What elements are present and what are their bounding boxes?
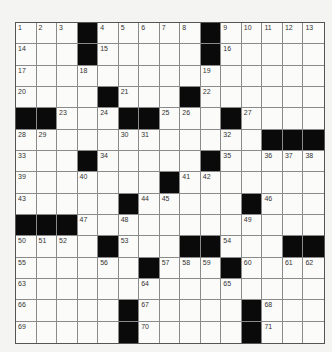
answer-cell[interactable] [139, 87, 160, 108]
answer-cell[interactable] [57, 322, 78, 343]
answer-cell[interactable] [303, 87, 324, 108]
answer-cell[interactable]: 71 [262, 322, 283, 343]
answer-cell[interactable] [98, 130, 119, 151]
answer-cell[interactable]: 20 [16, 87, 37, 108]
answer-cell[interactable] [78, 130, 99, 151]
answer-cell[interactable]: 39 [16, 172, 37, 193]
answer-cell[interactable]: 42 [201, 172, 222, 193]
answer-cell[interactable] [180, 322, 201, 343]
answer-cell[interactable]: 50 [16, 236, 37, 257]
answer-cell[interactable] [303, 44, 324, 65]
answer-cell[interactable]: 37 [283, 151, 304, 172]
answer-cell[interactable]: 2 [37, 23, 58, 44]
answer-cell[interactable] [242, 172, 263, 193]
answer-cell[interactable] [119, 151, 140, 172]
answer-cell[interactable]: 70 [139, 322, 160, 343]
answer-cell[interactable] [242, 279, 263, 300]
answer-cell[interactable] [180, 44, 201, 65]
answer-cell[interactable] [262, 258, 283, 279]
answer-cell[interactable] [283, 87, 304, 108]
answer-cell[interactable] [98, 66, 119, 87]
answer-cell[interactable] [160, 322, 181, 343]
answer-cell[interactable] [303, 215, 324, 236]
answer-cell[interactable] [119, 44, 140, 65]
answer-cell[interactable] [37, 66, 58, 87]
answer-cell[interactable] [37, 300, 58, 321]
answer-cell[interactable] [180, 300, 201, 321]
answer-cell[interactable]: 24 [98, 108, 119, 129]
answer-cell[interactable] [37, 44, 58, 65]
answer-cell[interactable]: 5 [119, 23, 140, 44]
answer-cell[interactable] [160, 300, 181, 321]
answer-cell[interactable] [78, 194, 99, 215]
answer-cell[interactable] [37, 258, 58, 279]
answer-cell[interactable] [201, 279, 222, 300]
answer-cell[interactable] [303, 66, 324, 87]
answer-cell[interactable]: 66 [16, 300, 37, 321]
answer-cell[interactable]: 60 [242, 258, 263, 279]
answer-cell[interactable]: 55 [16, 258, 37, 279]
answer-cell[interactable] [139, 66, 160, 87]
answer-cell[interactable] [78, 87, 99, 108]
answer-cell[interactable] [160, 130, 181, 151]
answer-cell[interactable]: 64 [139, 279, 160, 300]
answer-cell[interactable] [242, 44, 263, 65]
answer-cell[interactable]: 57 [160, 258, 181, 279]
answer-cell[interactable]: 19 [201, 66, 222, 87]
answer-cell[interactable]: 34 [98, 151, 119, 172]
answer-cell[interactable]: 38 [303, 151, 324, 172]
answer-cell[interactable] [283, 108, 304, 129]
answer-cell[interactable] [303, 172, 324, 193]
answer-cell[interactable]: 43 [16, 194, 37, 215]
answer-cell[interactable] [139, 236, 160, 257]
answer-cell[interactable] [201, 300, 222, 321]
answer-cell[interactable]: 23 [57, 108, 78, 129]
answer-cell[interactable] [160, 215, 181, 236]
answer-cell[interactable] [242, 130, 263, 151]
answer-cell[interactable]: 56 [98, 258, 119, 279]
answer-cell[interactable] [78, 258, 99, 279]
answer-cell[interactable]: 8 [180, 23, 201, 44]
answer-cell[interactable] [283, 279, 304, 300]
answer-cell[interactable]: 27 [242, 108, 263, 129]
answer-cell[interactable]: 61 [283, 258, 304, 279]
answer-cell[interactable]: 11 [262, 23, 283, 44]
answer-cell[interactable] [221, 87, 242, 108]
answer-cell[interactable] [119, 279, 140, 300]
answer-cell[interactable]: 30 [119, 130, 140, 151]
answer-cell[interactable] [160, 151, 181, 172]
answer-cell[interactable] [180, 279, 201, 300]
answer-cell[interactable] [221, 172, 242, 193]
answer-cell[interactable] [37, 172, 58, 193]
answer-cell[interactable] [57, 44, 78, 65]
answer-cell[interactable]: 25 [160, 108, 181, 129]
answer-cell[interactable] [57, 130, 78, 151]
answer-cell[interactable] [221, 215, 242, 236]
answer-cell[interactable]: 36 [262, 151, 283, 172]
answer-cell[interactable] [283, 172, 304, 193]
answer-cell[interactable]: 40 [78, 172, 99, 193]
answer-cell[interactable]: 15 [98, 44, 119, 65]
answer-cell[interactable] [160, 236, 181, 257]
answer-cell[interactable] [119, 66, 140, 87]
answer-cell[interactable] [201, 130, 222, 151]
answer-cell[interactable] [180, 130, 201, 151]
answer-cell[interactable] [57, 151, 78, 172]
answer-cell[interactable] [139, 215, 160, 236]
answer-cell[interactable] [78, 108, 99, 129]
answer-cell[interactable]: 32 [221, 130, 242, 151]
answer-cell[interactable] [283, 44, 304, 65]
answer-cell[interactable]: 59 [201, 258, 222, 279]
answer-cell[interactable] [201, 194, 222, 215]
answer-cell[interactable] [201, 108, 222, 129]
answer-cell[interactable] [262, 66, 283, 87]
answer-cell[interactable] [57, 258, 78, 279]
answer-cell[interactable] [98, 300, 119, 321]
answer-cell[interactable] [262, 215, 283, 236]
answer-cell[interactable]: 17 [16, 66, 37, 87]
answer-cell[interactable] [262, 44, 283, 65]
answer-cell[interactable] [160, 279, 181, 300]
answer-cell[interactable]: 54 [221, 236, 242, 257]
answer-cell[interactable] [262, 108, 283, 129]
answer-cell[interactable]: 62 [303, 258, 324, 279]
